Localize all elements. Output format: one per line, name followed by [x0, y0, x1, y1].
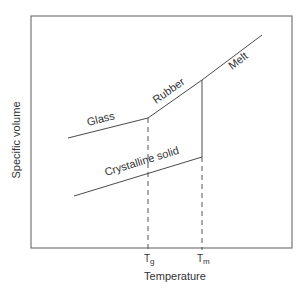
- plot-frame: [31, 16, 292, 248]
- melt-label: Melt: [226, 50, 250, 72]
- glass-label: Glass: [86, 109, 117, 128]
- crystalline-solid-label: Crystalline solid: [103, 144, 180, 178]
- x-axis-label: Temperature: [144, 270, 206, 282]
- y-axis-label: Specific volume: [10, 101, 22, 178]
- rubber-label: Rubber: [150, 75, 187, 106]
- tm-tick-label: Tm: [197, 253, 210, 266]
- diagram-canvas: Glass Rubber Melt Crystalline solid Tg T…: [0, 0, 307, 292]
- tg-tick-label: Tg: [144, 253, 155, 266]
